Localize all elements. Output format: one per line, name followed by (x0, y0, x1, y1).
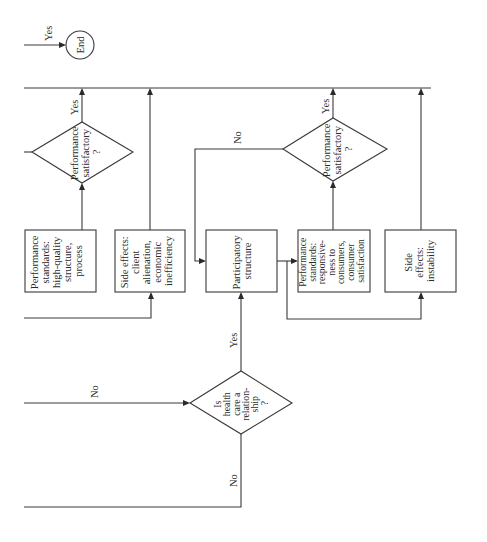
decision-relationship: Is health care a relation- ship ? (190, 371, 292, 434)
edge-no-into-relationship: No (24, 385, 190, 406)
edge-into-side-effects-1 (24, 292, 154, 318)
edge-yes-to-end: Yes (24, 26, 66, 48)
edge-relationship-no: No (24, 434, 241, 507)
svg-text:Yes: Yes (320, 99, 331, 114)
edge-performance-1-yes: Yes (69, 88, 85, 122)
svg-text:No: No (228, 474, 239, 487)
end-terminal: End (66, 31, 94, 59)
edge-standards-2-to-performance-2 (330, 181, 336, 230)
end-label: End (75, 36, 86, 54)
box-participatory-structure: Participatory structure (206, 230, 277, 292)
svg-text:Side effects: client: Side effects: client alienation, economi… (119, 234, 174, 289)
svg-text:Yes: Yes (228, 333, 239, 348)
box-performance-standards-2: Performance standards: responsive- ness … (297, 230, 370, 292)
box-side-effects-1: Side effects: client alienation, economi… (115, 230, 185, 292)
svg-text:No: No (89, 385, 100, 398)
edge-standards-1-to-performance-1 (79, 183, 85, 230)
edge-side-effects-1-to-top (147, 88, 153, 230)
box-side-effects-2: Side effects: instability (385, 230, 456, 292)
edge-performance-2-yes: Yes (320, 88, 336, 118)
edge-side-effects-2-to-top (418, 88, 424, 230)
flowchart: Yes End Performance satisfactory ? Yes P… (0, 0, 487, 542)
decision-performance-1: Performance satisfactory ? (32, 122, 133, 183)
edge-label-yes-end: Yes (43, 26, 54, 41)
decision-performance-2: Performance satisfactory ? (283, 118, 387, 181)
edge-relationship-yes: Yes (228, 292, 244, 371)
svg-text:No: No (232, 131, 243, 144)
svg-text:Yes: Yes (69, 100, 80, 115)
box-performance-standards-1: Performance standards: high-quality stru… (25, 230, 96, 292)
